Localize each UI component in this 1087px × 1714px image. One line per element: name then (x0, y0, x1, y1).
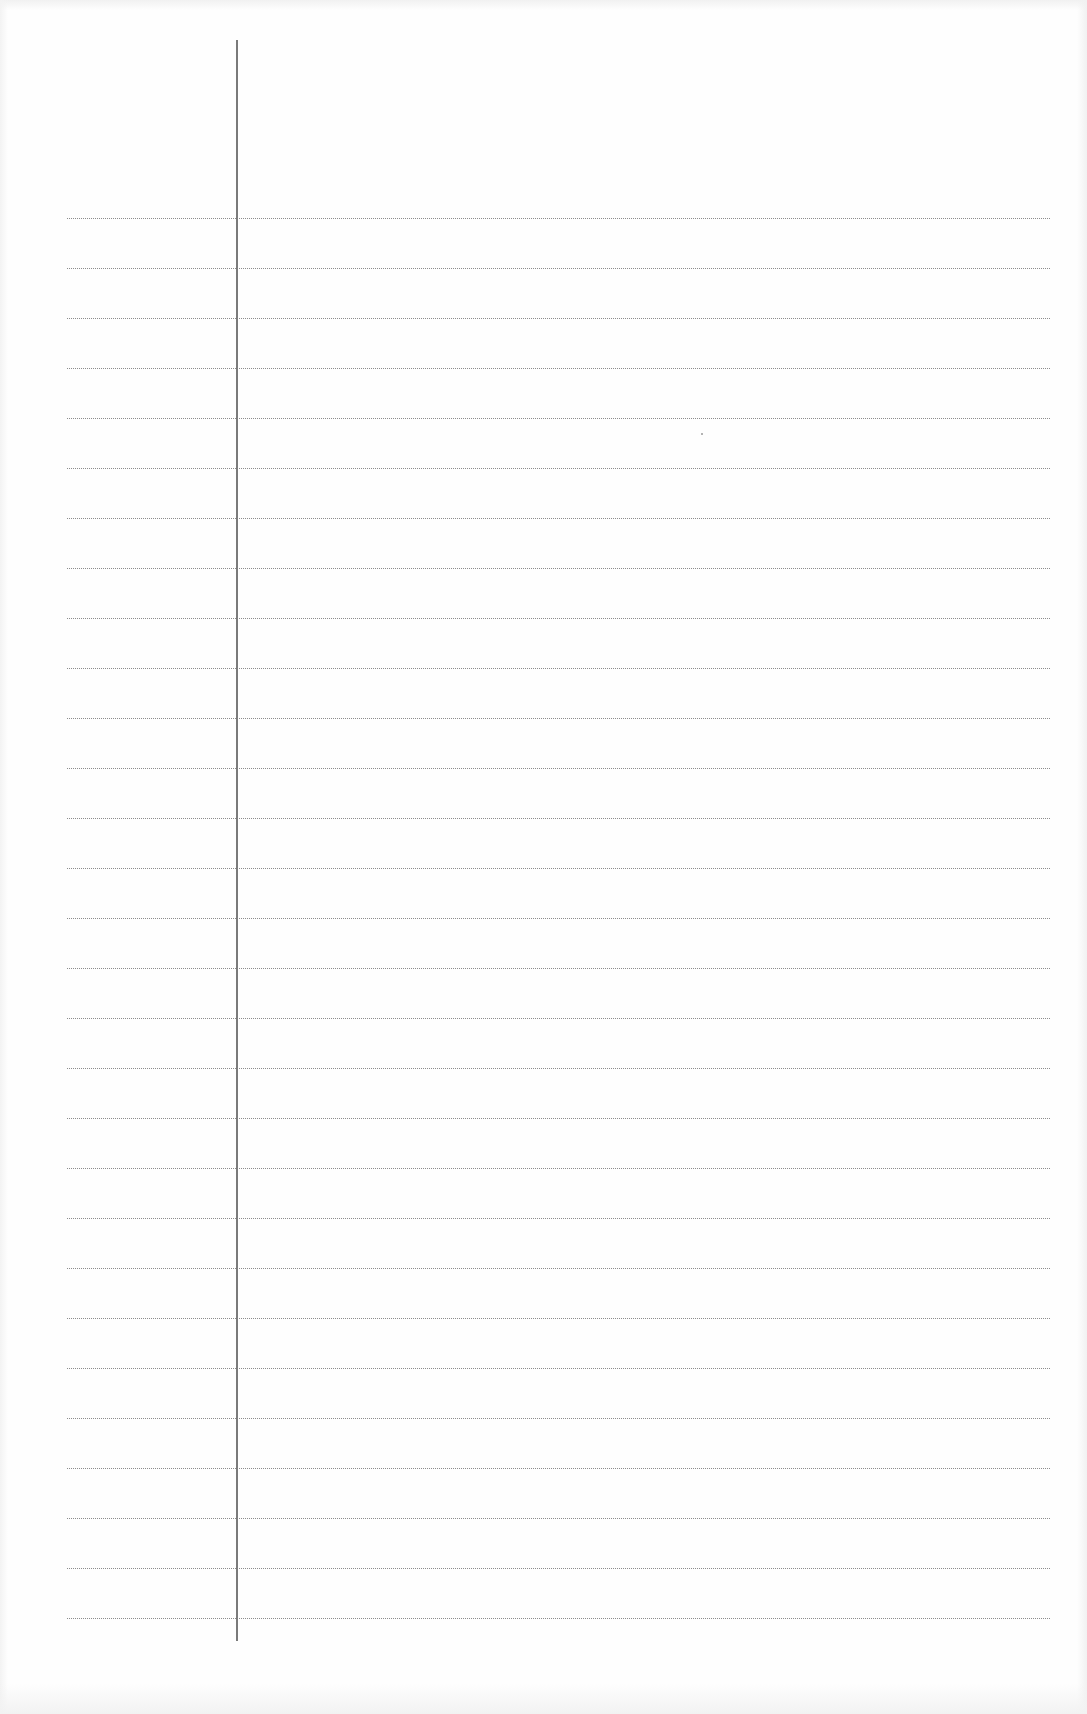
rule-line (67, 1468, 1050, 1469)
rule-line (67, 1268, 1050, 1269)
scan-edge-top (0, 0, 1087, 10)
margin-line (236, 40, 238, 1641)
rule-line (67, 1168, 1050, 1169)
rule-line (67, 268, 1050, 269)
rule-line (67, 518, 1050, 519)
rule-line (67, 418, 1050, 419)
rule-line (67, 1118, 1050, 1119)
rule-line (67, 618, 1050, 619)
rule-line (67, 218, 1050, 219)
rule-line (67, 1618, 1050, 1619)
rule-line (67, 1318, 1050, 1319)
rule-line (67, 868, 1050, 869)
speck-mark (701, 433, 703, 435)
rule-line (67, 818, 1050, 819)
rule-line (67, 968, 1050, 969)
rule-line (67, 1068, 1050, 1069)
rule-line (67, 768, 1050, 769)
rule-line (67, 1418, 1050, 1419)
scan-edge-bottom (0, 1684, 1087, 1714)
rule-line (67, 1568, 1050, 1569)
rule-line (67, 318, 1050, 319)
rule-line (67, 1218, 1050, 1219)
rule-line (67, 1368, 1050, 1369)
rule-line (67, 918, 1050, 919)
rule-line (67, 718, 1050, 719)
scan-edge-right (1077, 0, 1087, 1714)
ruled-paper-page (0, 0, 1087, 1714)
rule-line (67, 668, 1050, 669)
rule-line (67, 1518, 1050, 1519)
rule-line (67, 368, 1050, 369)
rule-line (67, 568, 1050, 569)
rule-line (67, 1018, 1050, 1019)
scan-edge-left (0, 0, 8, 1714)
rule-line (67, 468, 1050, 469)
